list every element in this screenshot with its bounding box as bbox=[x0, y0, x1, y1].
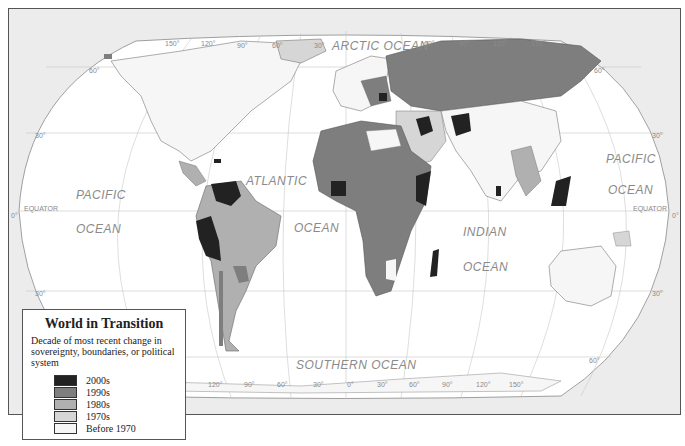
legend-title: World in Transition bbox=[31, 316, 177, 332]
legend-label: 1990s bbox=[86, 387, 110, 398]
label-lat-0-west: 0° bbox=[11, 212, 18, 219]
label-lon-bottom: 60° bbox=[409, 381, 420, 388]
label-lat-30s-west: 30° bbox=[35, 290, 46, 297]
label-lon-top: 150° bbox=[531, 40, 545, 47]
legend-label: 2000s bbox=[86, 375, 110, 386]
label-lon-bottom: 90° bbox=[442, 381, 453, 388]
swatch-1990s bbox=[54, 387, 77, 398]
label-atlantic-ocean: OCEAN bbox=[294, 221, 339, 235]
legend-item-1990s: 1990s bbox=[54, 386, 177, 398]
label-lon-top: 30° bbox=[314, 42, 325, 49]
label-indian-ocean: OCEAN bbox=[463, 260, 508, 274]
label-pacific-west-ocean: OCEAN bbox=[76, 222, 121, 236]
legend-item-before-1970: Before 1970 bbox=[54, 422, 177, 434]
legend-items: 2000s 1990s 1980s 1970s Before 1970 bbox=[54, 374, 177, 434]
legend-label: 1970s bbox=[86, 411, 110, 422]
label-equator-east: EQUATOR bbox=[633, 205, 667, 212]
label-lon-bottom: 90° bbox=[244, 381, 255, 388]
label-lat-60n-east: 60° bbox=[594, 67, 605, 74]
label-lon-bottom: 30° bbox=[313, 381, 324, 388]
label-lon-top: 120° bbox=[201, 40, 215, 47]
label-lon-top: 90° bbox=[459, 40, 470, 47]
label-southern-ocean: SOUTHERN OCEAN bbox=[296, 358, 416, 372]
label-lat-30s-east: 30° bbox=[652, 290, 663, 297]
legend-item-1980s: 1980s bbox=[54, 398, 177, 410]
legend-description: Decade of most recent change in sovereig… bbox=[31, 335, 177, 368]
label-lon-bottom: 30° bbox=[377, 381, 388, 388]
label-lat-0-east: 0° bbox=[672, 212, 679, 219]
label-lat-60s-east: 60° bbox=[589, 357, 600, 364]
legend-item-1970s: 1970s bbox=[54, 410, 177, 422]
label-lon-bottom: 0° bbox=[347, 381, 354, 388]
label-equator-west: EQUATOR bbox=[24, 205, 58, 212]
label-atlantic: ATLANTIC bbox=[246, 174, 307, 188]
label-pacific-east: PACIFIC bbox=[606, 152, 656, 166]
label-arctic-ocean: ARCTIC OCEAN bbox=[332, 39, 429, 53]
label-lat-30n-west: 30° bbox=[35, 132, 46, 139]
label-lon-bottom: 150° bbox=[509, 381, 523, 388]
swatch-2000s bbox=[54, 375, 77, 386]
swatch-before-1970 bbox=[54, 423, 77, 434]
label-lon-bottom: 60° bbox=[277, 381, 288, 388]
label-lon-top: 150° bbox=[165, 40, 179, 47]
label-lon-top: 60° bbox=[272, 42, 283, 49]
label-lat-30n-east: 30° bbox=[652, 132, 663, 139]
label-pacific-west: PACIFIC bbox=[76, 188, 126, 202]
label-lat-60n-west: 60° bbox=[89, 67, 100, 74]
legend-item-2000s: 2000s bbox=[54, 374, 177, 386]
legend-label: 1980s bbox=[86, 399, 110, 410]
label-lon-top: 90° bbox=[237, 42, 248, 49]
swatch-1970s bbox=[54, 411, 77, 422]
label-lon-bottom: 120° bbox=[208, 381, 222, 388]
legend-label: Before 1970 bbox=[86, 423, 136, 434]
label-indian: INDIAN bbox=[463, 225, 507, 239]
label-lon-bottom: 120° bbox=[476, 381, 490, 388]
legend-box: World in Transition Decade of most recen… bbox=[22, 309, 186, 440]
label-lon-top: 60° bbox=[424, 40, 435, 47]
swatch-1980s bbox=[54, 399, 77, 410]
label-lon-top: 120° bbox=[493, 40, 507, 47]
label-pacific-east-ocean: OCEAN bbox=[608, 183, 653, 197]
